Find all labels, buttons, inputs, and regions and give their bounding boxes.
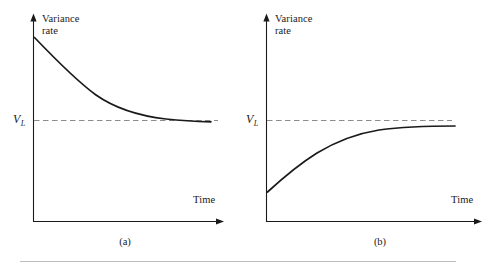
y-axis-title-b-line2: rate <box>275 25 291 36</box>
level-subscript-a: L <box>21 119 25 128</box>
x-axis-title-b: Time <box>451 194 473 206</box>
y-axis-a <box>30 14 36 223</box>
plot-b-svg <box>233 0 503 267</box>
x-axis-title-a: Time <box>193 194 215 206</box>
variance-curve-b <box>268 126 456 192</box>
level-subscript-b: L <box>254 119 258 128</box>
y-axis-title-a-line1: Variance <box>42 13 80 24</box>
bottom-divider <box>20 261 456 262</box>
chart-panel-a: Variance rate Time VL (a) <box>0 0 250 267</box>
y-axis-title-a: Variance rate <box>42 13 80 37</box>
figure-container: Variance rate Time VL (a) <box>0 0 503 267</box>
y-axis-title-a-line2: rate <box>42 25 58 36</box>
x-axis-a <box>33 218 224 224</box>
chart-panel-b: Variance rate Time VL (b) <box>233 0 503 267</box>
variance-curve-a <box>35 38 212 122</box>
panel-caption-b: (b) <box>355 236 405 247</box>
panel-caption-a: (a) <box>100 236 150 247</box>
level-symbol-a: V <box>13 112 20 126</box>
level-label-b: VL <box>246 112 258 127</box>
y-axis-title-b: Variance rate <box>275 13 313 37</box>
x-axis-b <box>266 218 482 224</box>
y-axis-title-b-line1: Variance <box>275 13 313 24</box>
plot-a-svg <box>0 0 250 267</box>
level-symbol-b: V <box>246 112 253 126</box>
level-label-a: VL <box>13 112 25 127</box>
